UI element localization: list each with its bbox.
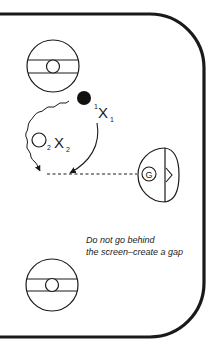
- svg-text:X: X: [54, 134, 64, 151]
- faceoff-circle-top: [27, 40, 79, 92]
- goalie: G: [142, 167, 156, 181]
- svg-text:G: G: [145, 170, 152, 180]
- faceoff-circle-bottom: [26, 259, 78, 311]
- skating-path-x1: [70, 123, 98, 173]
- player2-start-icon: [32, 133, 46, 147]
- svg-text:2: 2: [66, 146, 70, 153]
- player-x2: 2 X 2: [47, 134, 70, 153]
- rink-boards: [0, 14, 204, 337]
- puck-dot-icon: [77, 91, 91, 105]
- drill-diagram: 1 X 1 2 X 2 G: [0, 0, 221, 357]
- coaching-note: Do not go behind the screen–create a gap: [86, 234, 183, 258]
- svg-text:1: 1: [110, 116, 114, 123]
- coaching-note-line-1: Do not go behind: [86, 234, 183, 246]
- svg-text:X: X: [98, 104, 108, 121]
- svg-text:2: 2: [47, 144, 51, 151]
- player-x1: 1 X 1: [94, 103, 114, 123]
- coaching-note-line-2: the screen–create a gap: [86, 246, 183, 258]
